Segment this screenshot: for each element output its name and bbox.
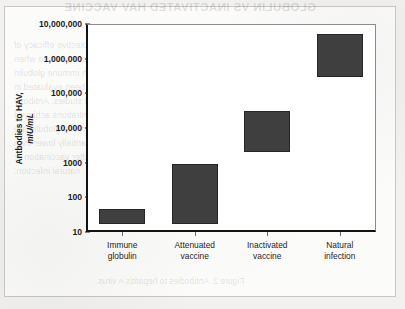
- y-axis-tick-label: 10,000,000: [8, 19, 82, 29]
- bar: [244, 111, 290, 152]
- x-axis-category-label-line: Natural: [326, 240, 353, 250]
- y-axis-tick-labels: 10,000,0001,000,000100,00010,00010001001…: [8, 0, 82, 309]
- bar: [99, 209, 145, 224]
- chart-figure: Antbodies to HAV, mIU/mL 10,000,0001,000…: [0, 0, 405, 309]
- y-axis-tick-label: 1000: [8, 158, 82, 168]
- x-axis-category-label-line: Immune: [107, 240, 137, 250]
- x-axis-tick-mark: [122, 232, 123, 236]
- x-axis-category-label-line: vaccine: [181, 251, 209, 261]
- x-axis-category-label-line: infection: [324, 251, 355, 261]
- x-axis-category-label: Immuneglobulin: [107, 240, 137, 261]
- bar: [317, 34, 363, 76]
- y-axis-tick-label: 10,000: [8, 123, 82, 133]
- y-axis-tick-label: 10: [8, 227, 82, 237]
- x-axis-category-label: Inactivatedvaccine: [247, 240, 288, 261]
- x-axis-category-label-line: Inactivated: [247, 240, 288, 250]
- x-axis-tick-mark: [340, 232, 341, 236]
- x-axis-category-label-line: vaccine: [253, 251, 281, 261]
- bar: [172, 164, 218, 224]
- y-axis-tick-label: 1,000,000: [8, 54, 82, 64]
- x-axis-category-label: Naturalinfection: [324, 240, 355, 261]
- x-axis-category-label: Attenuatedvaccine: [174, 240, 215, 261]
- x-axis-category-label-line: globulin: [108, 251, 137, 261]
- x-axis-tick-mark: [195, 232, 196, 236]
- x-axis-tick-mark: [267, 232, 268, 236]
- x-axis-category-label-line: Attenuated: [174, 240, 215, 250]
- y-axis-tick-label: 100,000: [8, 88, 82, 98]
- y-axis-tick-label: 100: [8, 192, 82, 202]
